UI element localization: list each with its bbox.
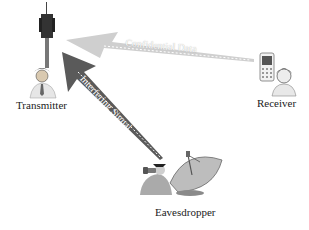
transmitter-label: Transmitter	[16, 99, 67, 111]
eavesdropper-spy-icon	[140, 164, 172, 195]
cell-tower-icon	[39, 2, 55, 68]
diagram-graphics	[0, 0, 309, 230]
transmitter-person-icon	[30, 68, 56, 98]
diagram-canvas: Confidential Data Interfering Signal Tra…	[0, 0, 309, 230]
receiver-person-icon	[272, 69, 296, 97]
receiver-label: Receiver	[257, 97, 296, 109]
eavesdropper-label: Eavesdropper	[155, 206, 215, 218]
satellite-dish-icon	[170, 151, 222, 196]
mobile-phone-icon	[260, 53, 274, 81]
